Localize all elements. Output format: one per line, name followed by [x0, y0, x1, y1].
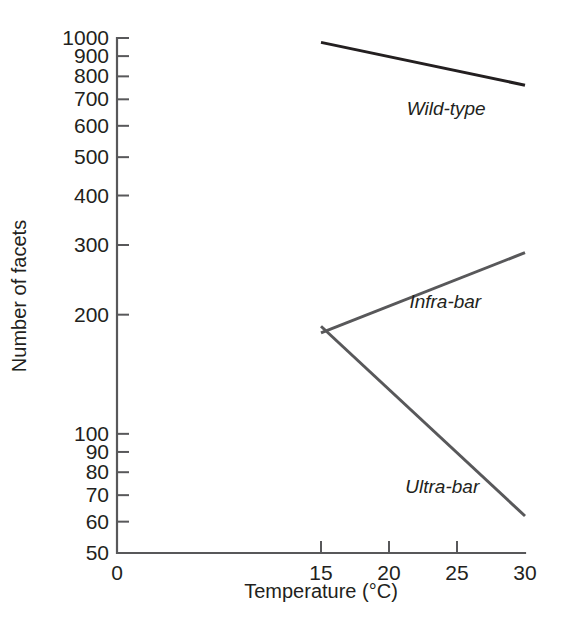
y-tick-label: 300: [74, 233, 109, 256]
y-tick-label: 700: [74, 87, 109, 110]
y-axis-title: Number of facets: [8, 220, 30, 372]
y-tick-label: 400: [74, 184, 109, 207]
y-tick-label: 50: [86, 541, 109, 564]
chart-figure: 1000900800700600500400300200100908070605…: [0, 0, 566, 634]
x-tick-label: 30: [513, 561, 536, 584]
series-label-wild-type: Wild-type: [407, 98, 486, 119]
y-tick-label: 80: [86, 460, 109, 483]
series-label-ultra-bar: Ultra-bar: [405, 476, 480, 497]
y-tick-label: 500: [74, 145, 109, 168]
x-axis-title: Temperature (°C): [244, 580, 398, 602]
x-tick-label: 25: [445, 561, 468, 584]
y-tick-label: 600: [74, 114, 109, 137]
x-tick-label: 0: [111, 561, 123, 584]
series-label-infra-bar: Infra-bar: [409, 291, 481, 312]
y-tick-label: 70: [86, 483, 109, 506]
y-tick-label: 60: [86, 510, 109, 533]
y-tick-label: 800: [74, 64, 109, 87]
y-tick-label: 200: [74, 303, 109, 326]
